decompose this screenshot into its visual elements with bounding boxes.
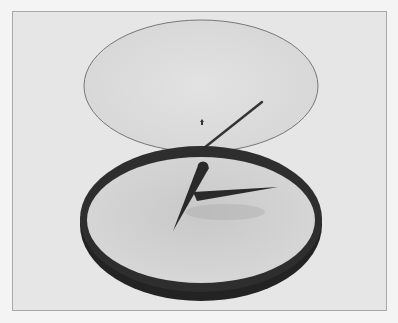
glass-cover [84, 20, 318, 152]
clock-illustration [0, 0, 398, 323]
hand-shadow [185, 204, 265, 220]
hand-hub [198, 162, 209, 173]
